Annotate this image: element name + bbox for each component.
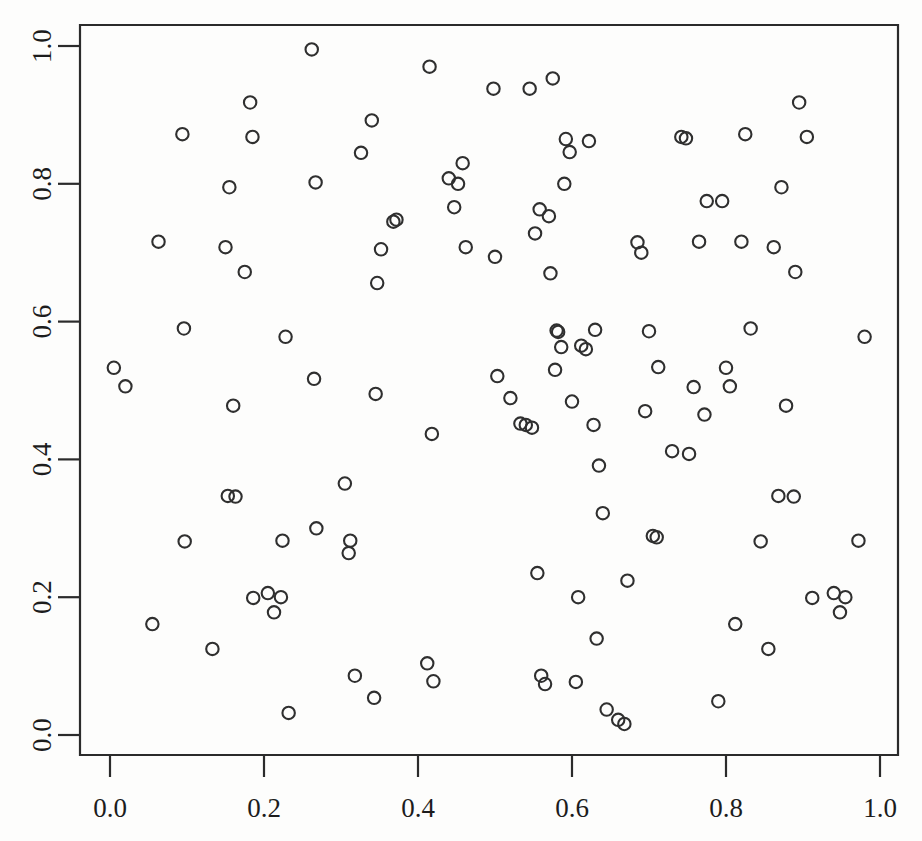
y-tick-label: 0.6 [27,305,57,339]
data-point [643,325,655,337]
data-point [366,114,378,126]
data-point [344,535,356,547]
data-point [590,632,602,644]
x-tick-label: 0.4 [401,793,435,823]
data-point [666,445,678,457]
data-point [219,241,231,253]
data-point [309,176,321,188]
data-point [247,592,259,604]
data-point [487,83,499,95]
data-point [523,83,535,95]
y-tick-label: 0.2 [27,580,57,614]
data-point [544,267,556,279]
data-point [683,448,695,460]
data-point [371,277,383,289]
data-point [780,399,792,411]
data-point [768,241,780,253]
data-point [652,361,664,373]
data-point [339,477,351,489]
x-tick-label: 0.8 [709,793,743,823]
data-point [772,490,784,502]
data-point [570,676,582,688]
data-point [349,670,361,682]
data-point [223,181,235,193]
data-point [589,324,601,336]
y-tick-label: 0.8 [27,167,57,201]
data-point [806,592,818,604]
data-point [355,147,367,159]
data-point [788,490,800,502]
data-point [306,43,318,55]
plot-canvas: 0.00.20.40.60.81.0 0.00.20.40.60.81.0 [0,0,922,841]
data-point [421,657,433,669]
data-point [566,395,578,407]
data-point [549,364,561,376]
data-point [716,195,728,207]
data-point [639,405,651,417]
data-point [452,178,464,190]
data-point [427,675,439,687]
data-point [762,643,774,655]
data-point [600,703,612,715]
data-point [206,643,218,655]
data-point [839,591,851,603]
data-point [491,370,503,382]
data-point [583,135,595,147]
y-tick-label: 0.0 [27,718,57,752]
y-tick-label: 0.4 [27,442,57,476]
data-point [547,72,559,84]
data-point [456,157,468,169]
data-point [239,266,251,278]
data-point [735,235,747,247]
data-point [275,591,287,603]
data-point [426,428,438,440]
data-point [754,535,766,547]
data-point [310,522,322,534]
plot-box-border [80,25,898,755]
data-point [276,535,288,547]
data-point [375,243,387,255]
data-point [852,535,864,547]
data-points-layer [108,43,871,730]
data-point [343,547,355,559]
data-point [244,96,256,108]
data-point [119,380,131,392]
data-point [268,606,280,618]
x-tick-label: 1.0 [863,793,897,823]
y-tick-label: 1.0 [27,29,57,63]
data-point [724,380,736,392]
plot-box-frame [80,25,898,755]
data-point [108,362,120,374]
data-point [178,322,190,334]
data-point [504,392,516,404]
data-point [279,331,291,343]
data-point [701,195,713,207]
scatter-plot-figure: 0.00.20.40.60.81.0 0.00.20.40.60.81.0 [0,0,922,841]
data-point [744,322,756,334]
data-point [621,574,633,586]
data-point [146,618,158,630]
data-point [246,131,258,143]
x-axis-ticks: 0.00.20.40.60.81.0 [93,755,897,823]
data-point [308,373,320,385]
x-tick-label: 0.6 [555,793,589,823]
data-point [282,707,294,719]
data-point [178,535,190,547]
data-point [693,235,705,247]
data-point [489,251,501,263]
x-tick-label: 0.0 [93,793,127,823]
data-point [739,128,751,140]
data-point [712,695,724,707]
data-point [558,178,570,190]
data-point [460,241,472,253]
data-point [443,172,455,184]
data-point [729,618,741,630]
data-point [698,408,710,420]
data-point [720,362,732,374]
data-point [834,606,846,618]
data-point [262,587,274,599]
data-point [563,146,575,158]
data-point [448,201,460,213]
data-point [597,507,609,519]
data-point [687,381,699,393]
